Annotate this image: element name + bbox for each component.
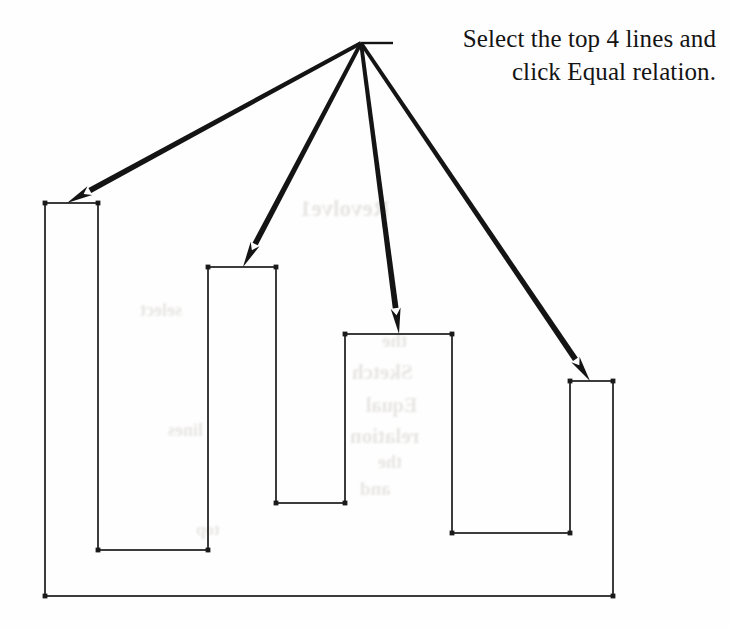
sketch-drawing	[0, 0, 730, 628]
sketch-endpoint[interactable]	[611, 594, 616, 599]
sketch-endpoint[interactable]	[43, 201, 48, 206]
sketch-endpoint[interactable]	[96, 201, 101, 206]
sketch-endpoint[interactable]	[450, 531, 455, 536]
sketch-endpoint[interactable]	[96, 548, 101, 553]
annotation-callout-text: Select the top 4 lines and click Equal r…	[300, 22, 716, 88]
sketch-endpoint[interactable]	[568, 531, 573, 536]
sketch-endpoint[interactable]	[206, 265, 211, 270]
annotation-line-2: click Equal relation.	[300, 55, 716, 88]
scanned-figure-page: Revolve1theSketchEqualrelationtheandsele…	[0, 0, 730, 628]
sketch-endpoint[interactable]	[611, 379, 616, 384]
arrow-2-head	[243, 242, 260, 267]
sketch-endpoint[interactable]	[450, 332, 455, 337]
sketch-endpoint[interactable]	[343, 332, 348, 337]
sketch-endpoint[interactable]	[43, 594, 48, 599]
sketch-endpoints[interactable]	[43, 201, 616, 599]
sketch-endpoint[interactable]	[343, 501, 348, 506]
arrow-1-head	[67, 186, 92, 203]
sketch-endpoint[interactable]	[274, 265, 279, 270]
sketch-endpoint[interactable]	[274, 501, 279, 506]
sketch-endpoint[interactable]	[568, 379, 573, 384]
arrow-3-head	[391, 308, 401, 334]
sketch-outline-path[interactable]	[45, 203, 613, 596]
annotation-arrows	[67, 41, 590, 381]
annotation-line-1: Select the top 4 lines and	[300, 22, 716, 55]
castellated-outline[interactable]	[45, 203, 613, 596]
sketch-endpoint[interactable]	[206, 548, 211, 553]
